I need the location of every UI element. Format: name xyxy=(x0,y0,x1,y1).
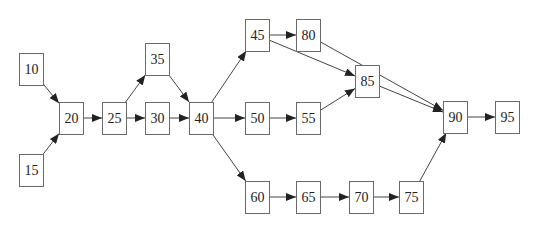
node-10: 10 xyxy=(19,53,44,86)
node-95: 95 xyxy=(495,101,520,134)
edge-25-35 xyxy=(126,75,146,102)
edge-55-85 xyxy=(320,89,355,111)
node-label: 20 xyxy=(65,111,79,127)
edge-15-20 xyxy=(43,134,59,155)
node-label: 95 xyxy=(501,110,515,126)
edge-10-20 xyxy=(43,84,59,104)
node-50: 50 xyxy=(245,102,270,135)
node-15: 15 xyxy=(19,154,44,187)
node-label: 60 xyxy=(251,190,265,206)
node-label: 55 xyxy=(302,111,316,127)
node-label: 75 xyxy=(405,190,419,206)
edge-80-90 xyxy=(320,42,443,111)
edge-40-60 xyxy=(212,134,245,181)
node-label: 35 xyxy=(151,52,165,68)
node-label: 30 xyxy=(151,111,165,127)
node-25: 25 xyxy=(102,102,127,135)
edge-85-90 xyxy=(379,86,443,112)
node-40: 40 xyxy=(189,102,214,135)
edge-40-45 xyxy=(212,51,246,102)
node-label: 45 xyxy=(251,28,265,44)
node-label: 65 xyxy=(302,190,316,206)
node-label: 50 xyxy=(251,111,265,127)
node-30: 30 xyxy=(145,102,170,135)
edge-75-90 xyxy=(420,133,446,181)
node-label: 85 xyxy=(361,74,375,90)
node-label: 70 xyxy=(355,190,369,206)
node-60: 60 xyxy=(245,181,270,214)
node-label: 40 xyxy=(195,111,209,127)
node-45: 45 xyxy=(245,19,270,52)
node-20: 20 xyxy=(59,102,84,135)
network-diagram: 10 15 20 25 30 35 40 45 50 55 60 65 70 7… xyxy=(0,0,536,226)
node-75: 75 xyxy=(399,181,424,214)
node-90: 90 xyxy=(443,101,468,134)
node-65: 65 xyxy=(296,181,321,214)
node-70: 70 xyxy=(349,181,374,214)
node-label: 10 xyxy=(25,62,39,78)
node-55: 55 xyxy=(296,102,321,135)
node-label: 15 xyxy=(25,163,39,179)
edge-35-40 xyxy=(169,75,189,102)
node-85: 85 xyxy=(355,65,380,98)
node-35: 35 xyxy=(145,43,170,76)
node-label: 25 xyxy=(108,111,122,127)
node-label: 90 xyxy=(449,110,463,126)
node-80: 80 xyxy=(296,19,321,52)
node-label: 80 xyxy=(302,28,316,44)
